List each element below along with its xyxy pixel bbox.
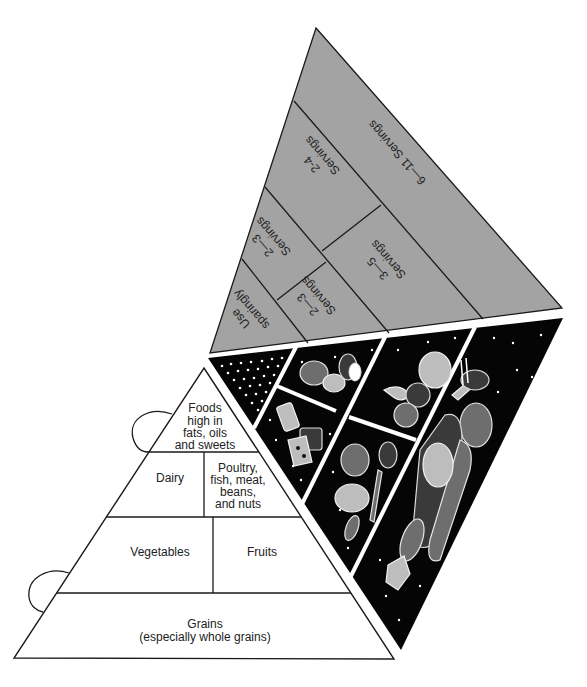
food-pyramid-cutout: 6—11 Servings 2-4 Servings 3—5 Servings … [0, 0, 587, 687]
label-grains-line2: (especially whole grains) [139, 630, 270, 644]
label-fats-line1: Foods [188, 401, 221, 415]
servings-face: 6—11 Servings 2-4 Servings 3—5 Servings … [210, 28, 562, 353]
label-dairy: Dairy [156, 471, 184, 485]
label-grains-line1: Grains [187, 617, 222, 631]
label-protein-line4: and nuts [215, 497, 261, 511]
label-vegetables: Vegetables [130, 545, 189, 559]
servings-face-triangle [210, 28, 562, 353]
label-fruits: Fruits [247, 545, 277, 559]
label-fats-line4: and sweets [175, 438, 236, 452]
